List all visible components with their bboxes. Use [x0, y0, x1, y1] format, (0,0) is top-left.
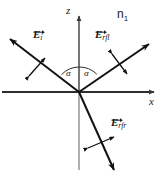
axis-group — [2, 16, 154, 170]
angle-of-incidence-label: α — [66, 69, 71, 78]
reflected-field-subscript: rfl — [102, 33, 109, 42]
reflected-ray-line — [79, 44, 149, 92]
reflected-field-label: Erfl — [95, 29, 109, 42]
incident-ray-line — [10, 39, 79, 92]
incident-field-vector: Ei — [33, 29, 42, 42]
reflected-ray-group — [79, 44, 149, 92]
refracted-ray-group — [79, 92, 114, 170]
medium-index-label: n1 — [117, 8, 128, 23]
incident-field-subscript: i — [40, 33, 42, 42]
angle-of-reflection-label: α — [84, 69, 89, 78]
reflected-ray-polarization-arrow — [112, 54, 127, 74]
incident-ray-group — [10, 39, 79, 92]
refracted-field-label: Erfr — [111, 117, 126, 130]
refracted-field-subscript: rfr — [118, 121, 126, 130]
optics-reflection-refraction-diagram: z x n1 α α Ei Erfl Erfr — [0, 0, 162, 178]
refracted-field-vector: Erfr — [111, 117, 126, 130]
medium-index-subscript: 1 — [124, 14, 128, 23]
z-axis-label: z — [66, 5, 70, 16]
reflected-field-vector: Erfl — [95, 29, 109, 42]
x-axis-label: x — [149, 96, 154, 107]
diagram-canvas — [0, 0, 162, 178]
medium-index-base: n — [117, 7, 124, 21]
incident-field-label: Ei — [33, 29, 42, 42]
refracted-ray-line — [79, 92, 114, 170]
